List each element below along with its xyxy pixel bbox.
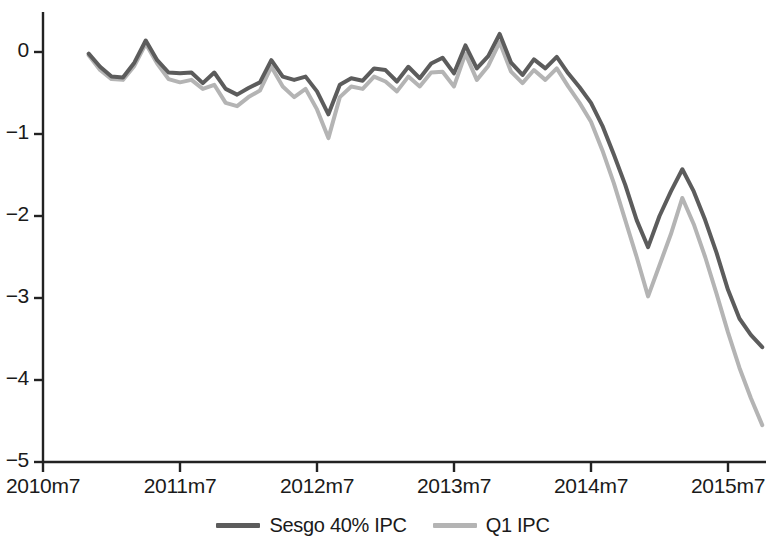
y-axis-tick-label: −1 xyxy=(0,120,29,144)
legend-item[interactable]: Q1 IPC xyxy=(433,514,550,537)
x-axis-tick-label: 2010m7 xyxy=(0,474,91,498)
line-chart: 0−1−2−3−4−5 2010m72011m72012m72013m72014… xyxy=(0,0,766,547)
chart-series-group xyxy=(89,34,763,425)
x-axis-tick-label: 2011m7 xyxy=(132,474,228,498)
chart-plot-area xyxy=(0,0,766,547)
x-axis-tick-label: 2013m7 xyxy=(406,474,502,498)
x-axis-tick-label: 2015m7 xyxy=(680,474,766,498)
y-axis-tick-label: 0 xyxy=(0,38,29,62)
x-axis-ticks xyxy=(43,462,728,472)
y-axis-tick-label: −5 xyxy=(0,448,29,472)
legend-color-swatch xyxy=(216,523,260,528)
legend-label: Q1 IPC xyxy=(486,514,550,537)
y-axis-tick-label: −3 xyxy=(0,284,29,308)
y-axis-ticks xyxy=(34,52,43,462)
legend-item[interactable]: Sesgo 40% IPC xyxy=(216,514,406,537)
y-axis-tick-label: −4 xyxy=(0,366,29,390)
chart-legend: Sesgo 40% IPCQ1 IPC xyxy=(0,514,766,537)
legend-label: Sesgo 40% IPC xyxy=(269,514,406,537)
legend-color-swatch xyxy=(433,523,477,528)
chart-axes xyxy=(34,12,766,472)
y-axis-tick-label: −2 xyxy=(0,202,29,226)
chart-series-line xyxy=(89,42,763,425)
x-axis-tick-label: 2014m7 xyxy=(543,474,639,498)
x-axis-tick-label: 2012m7 xyxy=(269,474,365,498)
